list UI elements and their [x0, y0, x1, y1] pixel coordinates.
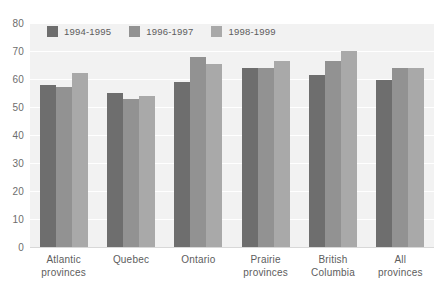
bar: [258, 68, 274, 247]
legend-label: 1996-1997: [146, 26, 193, 37]
legend-swatch-icon: [47, 26, 58, 37]
y-axis-tick-80: 80: [12, 18, 24, 29]
plot-area: [30, 23, 434, 247]
legend-swatch-icon: [211, 26, 222, 37]
x-axis: AtlanticprovincesQuebecOntarioPrairiepro…: [30, 250, 434, 292]
x-axis-label: Atlanticprovinces: [30, 250, 97, 292]
bar-chart: 80706050403020100 1994-19951996-19971998…: [0, 0, 434, 294]
y-axis-tick-40: 40: [12, 130, 24, 141]
legend-label: 1998-1999: [228, 26, 275, 37]
y-axis-tick-0: 0: [18, 242, 24, 253]
bar-group: [165, 23, 232, 247]
x-axis-label-line: Prairie: [232, 253, 299, 266]
x-axis-label-line: provinces: [367, 266, 434, 279]
bar-groups: [30, 23, 434, 247]
legend-item: 1994-1995: [47, 26, 111, 37]
bar: [72, 73, 88, 247]
bar-group-bars: [299, 23, 366, 247]
bar: [242, 68, 258, 247]
legend-item: 1996-1997: [129, 26, 193, 37]
legend: 1994-19951996-19971998-1999: [47, 26, 276, 37]
x-axis-label-line: Columbia: [299, 266, 366, 279]
x-axis-label: Ontario: [165, 250, 232, 292]
bar: [190, 57, 206, 247]
bar: [376, 80, 392, 247]
x-axis-label: Quebec: [97, 250, 164, 292]
x-axis-label: Allprovinces: [367, 250, 434, 292]
bar-group: [367, 23, 434, 247]
bar: [274, 61, 290, 247]
gridline-0: [30, 247, 434, 248]
x-axis-label-line: Atlantic: [30, 253, 97, 266]
x-axis-label-line: provinces: [232, 266, 299, 279]
bar: [206, 64, 222, 247]
bar: [123, 99, 139, 247]
bar: [107, 93, 123, 247]
x-axis-label-line: Quebec: [97, 253, 164, 266]
bar: [392, 68, 408, 247]
bar: [408, 68, 424, 247]
bar-group-bars: [165, 23, 232, 247]
bar-group-bars: [232, 23, 299, 247]
bar-group: [30, 23, 97, 247]
y-axis: 80706050403020100: [0, 23, 28, 247]
x-axis-label: BritishColumbia: [299, 250, 366, 292]
bar: [56, 87, 72, 247]
bar: [325, 61, 341, 247]
y-axis-tick-30: 30: [12, 158, 24, 169]
x-axis-label-line: All: [367, 253, 434, 266]
legend-swatch-icon: [129, 26, 140, 37]
x-axis-label-line: Ontario: [165, 253, 232, 266]
bar-group-bars: [367, 23, 434, 247]
x-axis-label-line: provinces: [30, 266, 97, 279]
bar: [139, 96, 155, 247]
x-axis-label: Prairieprovinces: [232, 250, 299, 292]
y-axis-tick-50: 50: [12, 102, 24, 113]
bar-group: [232, 23, 299, 247]
bar: [40, 85, 56, 247]
y-axis-tick-70: 70: [12, 46, 24, 57]
bar-group: [299, 23, 366, 247]
x-axis-label-line: British: [299, 253, 366, 266]
legend-label: 1994-1995: [64, 26, 111, 37]
bar-group-bars: [30, 23, 97, 247]
bar-group-bars: [97, 23, 164, 247]
bar: [309, 75, 325, 247]
legend-item: 1998-1999: [211, 26, 275, 37]
y-axis-tick-10: 10: [12, 214, 24, 225]
y-axis-tick-20: 20: [12, 186, 24, 197]
y-axis-tick-60: 60: [12, 74, 24, 85]
bar: [341, 51, 357, 247]
bar: [174, 82, 190, 247]
bar-group: [97, 23, 164, 247]
